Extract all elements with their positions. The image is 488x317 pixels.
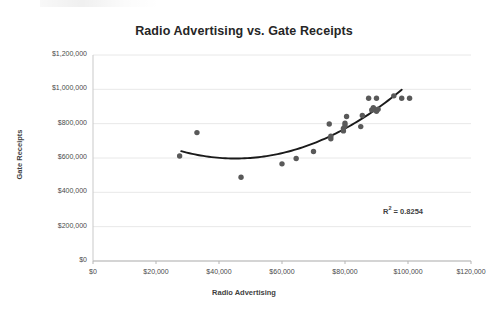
x-axis-tick-label: $100,000 [377, 268, 439, 275]
y-axis-tick-label: $1,200,000 [29, 50, 87, 57]
data-points [177, 93, 412, 180]
x-axis-tick-label: $80,000 [314, 268, 376, 275]
data-point [344, 114, 349, 119]
y-axis-tick-label: $0 [29, 256, 87, 263]
data-point [407, 96, 412, 101]
data-point [391, 93, 396, 98]
chart-figure: Radio Advertising vs. Gate Receipts $0$2… [0, 0, 488, 317]
x-axis-tick-label: $0 [62, 268, 124, 275]
data-point [327, 121, 332, 126]
r-squared-annotation: R2 = 0.8254 [383, 205, 423, 216]
x-axis-tick-label: $120,000 [440, 268, 488, 275]
data-point [360, 113, 365, 118]
data-point [374, 96, 379, 101]
x-axis-tick-label: $20,000 [125, 268, 187, 275]
data-point [194, 130, 199, 135]
y-axis-title: Gate Receipts [15, 100, 24, 210]
data-point [342, 120, 347, 125]
data-point [238, 175, 243, 180]
x-axis-tick-label: $60,000 [251, 268, 313, 275]
data-point [358, 124, 363, 129]
gridlines [93, 55, 471, 261]
y-axis-tick-label: $1,000,000 [29, 84, 87, 91]
data-point [279, 161, 284, 166]
data-point [366, 96, 371, 101]
x-axis-title: Radio Advertising [0, 288, 488, 297]
data-point [293, 156, 298, 161]
data-point [177, 153, 182, 158]
y-axis-tick-label: $800,000 [29, 119, 87, 126]
y-axis-tick-label: $600,000 [29, 153, 87, 160]
x-axis-tick-label: $40,000 [188, 268, 250, 275]
y-axis-tick-label: $400,000 [29, 187, 87, 194]
data-point [399, 96, 404, 101]
y-axis-tick-label: $200,000 [29, 222, 87, 229]
data-point [311, 149, 316, 154]
data-point [328, 134, 333, 139]
r-squared-suffix: = 0.8254 [391, 207, 423, 216]
data-point [375, 107, 380, 112]
